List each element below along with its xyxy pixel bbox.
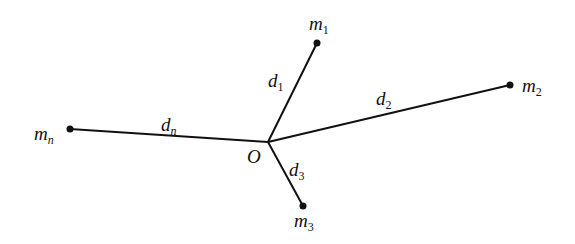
label-d3: d3 [289,160,305,182]
label-d1: d1 [268,71,284,93]
label-d2: d2 [376,89,392,111]
point-m1 [314,40,321,47]
label-origin: O [247,147,261,166]
label-m3: m3 [294,211,314,233]
point-mn [67,126,74,133]
point-m2 [507,82,514,89]
label-dn: dn [161,115,177,137]
label-m1: m1 [309,14,329,36]
label-m2: m2 [522,76,542,98]
label-mn: mn [34,124,54,146]
point-m3 [300,203,307,210]
diagram-canvas [0,0,575,244]
